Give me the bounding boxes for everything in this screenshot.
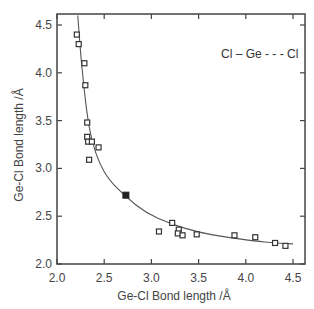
open-square-marker [85, 120, 90, 125]
y-tick-label: 2.5 [35, 209, 52, 223]
x-tick-label: 2.0 [49, 271, 66, 285]
y-tick-label: 3.0 [35, 161, 52, 175]
y-tick-label: 4.5 [35, 18, 52, 32]
y-tick-label: 2.0 [35, 257, 52, 271]
open-square-marker [74, 32, 79, 37]
open-square-marker [156, 229, 161, 234]
x-axis-title: Ge-Cl Bond length /Å [117, 288, 230, 303]
y-tick-label: 3.5 [35, 114, 52, 128]
open-square-marker [180, 233, 185, 238]
open-square-marker [89, 139, 94, 144]
x-tick-label: 3.5 [190, 271, 207, 285]
open-square-marker [82, 61, 87, 66]
annotation-label: Cl – Ge - - - Cl [221, 47, 298, 61]
open-square-marker [87, 157, 92, 162]
scatter-chart: 2.02.53.03.54.04.52.02.53.03.54.04.5 Cl … [0, 0, 314, 309]
y-tick-label: 4.0 [35, 66, 52, 80]
y-axis-title: Ge-Cl Bond length /Å [11, 88, 26, 201]
open-square-marker [194, 232, 199, 237]
open-square-marker [170, 220, 175, 225]
x-tick-label: 4.5 [285, 271, 302, 285]
x-tick-label: 4.0 [237, 271, 254, 285]
open-square-marker [283, 243, 288, 248]
open-square-marker [232, 233, 237, 238]
x-tick-label: 2.5 [96, 271, 113, 285]
data-points [74, 32, 288, 248]
open-square-marker [83, 83, 88, 88]
open-square-marker [273, 240, 278, 245]
open-square-marker [253, 235, 258, 240]
open-square-marker [76, 42, 81, 47]
open-square-marker [96, 145, 101, 150]
filled-square-marker [123, 192, 129, 198]
x-tick-label: 3.0 [143, 271, 160, 285]
